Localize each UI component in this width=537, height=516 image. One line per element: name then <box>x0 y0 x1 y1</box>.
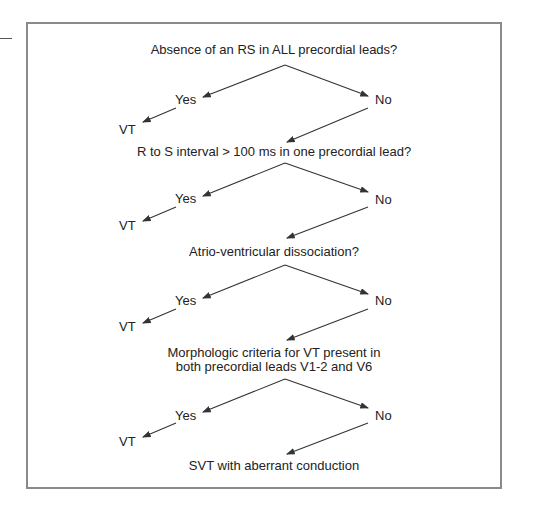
question-4-line-1: Morphologic criteria for VT present in <box>168 345 381 360</box>
no-label-3: No <box>375 293 392 308</box>
final-diagnosis: SVT with aberrant conduction <box>189 458 359 473</box>
yes-label-3: Yes <box>175 293 196 308</box>
vt-result-4: VT <box>119 434 136 449</box>
question-2: R to S interval > 100 ms in one precordi… <box>137 144 411 159</box>
yes-label-1: Yes <box>175 92 196 107</box>
question-3: Atrio-ventricular dissociation? <box>189 244 359 259</box>
no-label-1: No <box>375 92 392 107</box>
question-4-line-2: both precordial leads V1-2 and V6 <box>176 359 373 374</box>
question-1: Absence of an RS in ALL precordial leads… <box>151 42 398 57</box>
vt-result-2: VT <box>119 218 136 233</box>
no-label-2: No <box>375 192 392 207</box>
yes-label-2: Yes <box>175 191 196 206</box>
vt-result-1: VT <box>119 122 136 137</box>
yes-label-4: Yes <box>175 408 196 423</box>
vt-result-3: VT <box>119 319 136 334</box>
no-label-4: No <box>375 408 392 423</box>
